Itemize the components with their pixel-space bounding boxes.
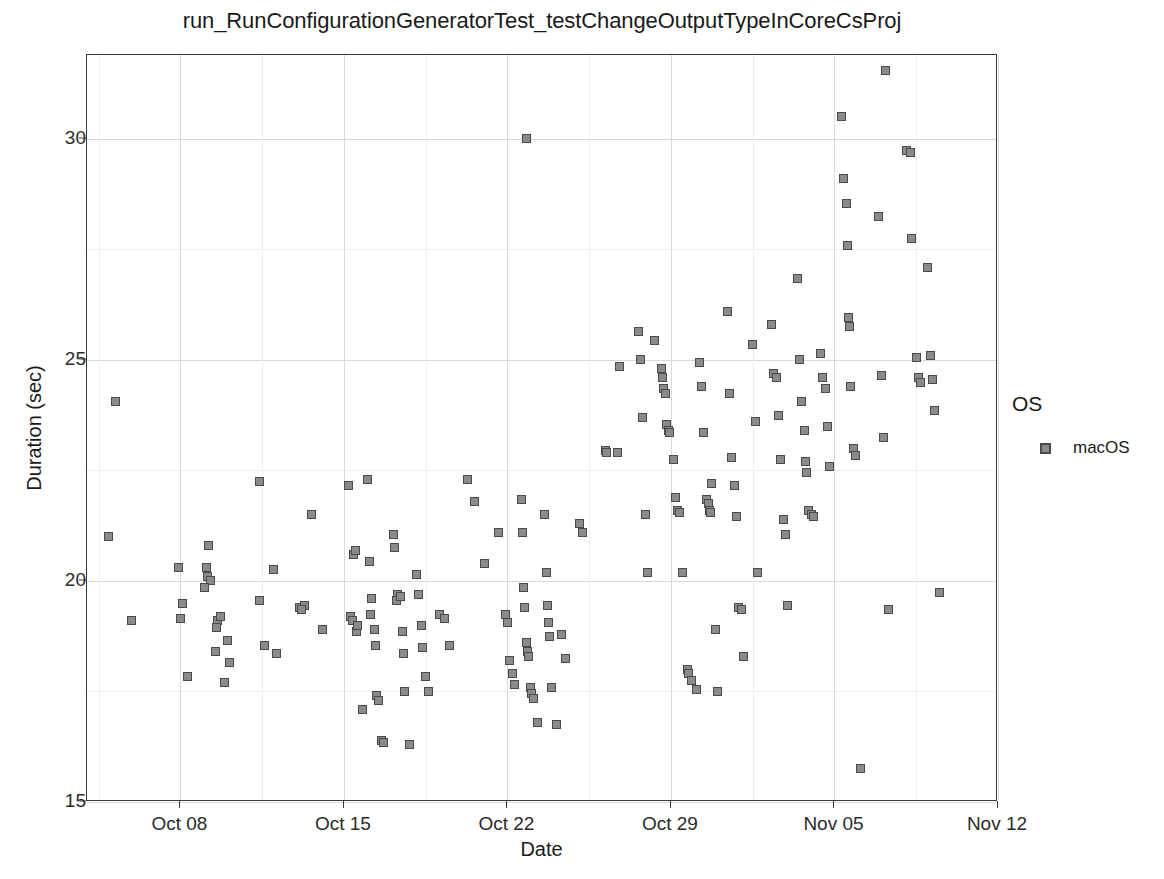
page-title: run_RunConfigurationGeneratorTest_testCh…	[86, 8, 998, 34]
data-point	[767, 320, 776, 329]
y-tick-mark	[79, 358, 86, 359]
data-point	[818, 373, 827, 382]
data-point	[543, 601, 552, 610]
data-point	[255, 477, 264, 486]
data-point	[494, 528, 503, 537]
x-tick-label: Nov 05	[773, 813, 893, 835]
data-point	[363, 475, 372, 484]
data-point	[661, 389, 670, 398]
data-point	[480, 559, 489, 568]
data-point	[463, 475, 472, 484]
data-point	[269, 565, 278, 574]
data-point	[212, 623, 221, 632]
data-point	[318, 625, 327, 634]
data-point	[344, 481, 353, 490]
data-point	[602, 448, 611, 457]
data-point	[843, 241, 852, 250]
y-tick-mark	[79, 801, 86, 802]
gridline-major-vertical	[998, 55, 999, 800]
data-point	[675, 508, 684, 517]
data-point	[529, 694, 538, 703]
data-point	[418, 643, 427, 652]
data-point	[307, 510, 316, 519]
data-point	[881, 66, 890, 75]
data-point	[127, 616, 136, 625]
data-point	[211, 647, 220, 656]
data-point	[518, 528, 527, 537]
data-point	[797, 397, 806, 406]
data-point	[641, 510, 650, 519]
data-point	[821, 384, 830, 393]
data-point	[202, 563, 211, 572]
data-point	[399, 649, 408, 658]
data-point	[825, 462, 834, 471]
data-point	[510, 680, 519, 689]
legend-title: OS	[1012, 392, 1162, 416]
data-point	[508, 669, 517, 678]
data-point	[923, 263, 932, 272]
data-point	[519, 583, 528, 592]
data-point	[727, 453, 736, 462]
data-point	[379, 738, 388, 747]
data-point	[928, 375, 937, 384]
data-point	[297, 605, 306, 614]
data-point	[713, 687, 722, 696]
y-tick-mark	[79, 579, 86, 580]
data-point	[390, 543, 399, 552]
data-point	[801, 457, 810, 466]
data-point	[421, 672, 430, 681]
legend-item-label: macOS	[1073, 438, 1130, 458]
data-point	[358, 705, 367, 714]
legend: OS macOS	[1012, 392, 1162, 458]
legend-item[interactable]: macOS	[1012, 438, 1162, 458]
data-point	[725, 389, 734, 398]
data-point	[912, 353, 921, 362]
data-point	[524, 652, 533, 661]
data-point	[732, 512, 741, 521]
data-point	[540, 510, 549, 519]
data-point	[730, 481, 739, 490]
data-point	[414, 590, 423, 599]
data-point	[697, 382, 706, 391]
data-point	[776, 455, 785, 464]
data-point	[575, 519, 584, 528]
data-point	[178, 599, 187, 608]
data-point	[545, 632, 554, 641]
data-point	[837, 112, 846, 121]
data-point	[578, 528, 587, 537]
data-point	[930, 406, 939, 415]
data-point	[737, 605, 746, 614]
data-point	[699, 428, 708, 437]
data-point	[501, 610, 510, 619]
data-point	[111, 397, 120, 406]
data-point	[823, 422, 832, 431]
x-tick-label: Oct 29	[610, 813, 730, 835]
data-point	[417, 621, 426, 630]
data-point	[842, 199, 851, 208]
data-point	[711, 625, 720, 634]
data-point	[470, 497, 479, 506]
data-point	[223, 636, 232, 645]
data-point	[692, 685, 701, 694]
y-axis: Duration (sec) 15202530	[0, 54, 86, 801]
data-point	[800, 426, 809, 435]
data-point	[816, 349, 825, 358]
data-point	[542, 568, 551, 577]
data-point	[220, 678, 229, 687]
data-point	[272, 649, 281, 658]
x-tick-label: Oct 08	[119, 813, 239, 835]
data-point	[926, 351, 935, 360]
data-point	[440, 614, 449, 623]
data-point	[650, 336, 659, 345]
data-point	[753, 568, 762, 577]
data-point	[552, 720, 561, 729]
data-point	[851, 451, 860, 460]
x-tick-mark	[506, 801, 507, 808]
y-axis-title: Duration (sec)	[23, 298, 46, 558]
data-point	[557, 630, 566, 639]
x-tick-mark	[997, 801, 998, 808]
data-point	[255, 596, 264, 605]
data-point	[176, 614, 185, 623]
data-point	[795, 355, 804, 364]
data-point	[445, 641, 454, 650]
